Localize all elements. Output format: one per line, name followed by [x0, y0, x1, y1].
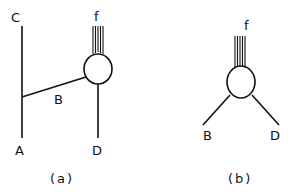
label-b: B: [54, 92, 63, 107]
label-d-b: D: [270, 128, 280, 143]
fiber-bundle-f: [93, 26, 103, 54]
fiber-bundle-f-b: [235, 36, 245, 68]
label-c: C: [11, 10, 20, 25]
label-b-b: B: [203, 128, 212, 143]
diagram-canvas: C A B f D (a) f B D (b): [0, 0, 296, 195]
label-f-b: f: [244, 18, 249, 33]
branch-d-line-b: [252, 95, 279, 125]
panel-a: C A B f D (a): [11, 9, 112, 186]
label-f: f: [94, 9, 99, 24]
panel-b: f B D (b): [203, 18, 280, 186]
label-d: D: [92, 143, 102, 158]
branch-b-line-b: [203, 95, 230, 125]
label-a: A: [15, 143, 24, 158]
cell-body-circle: [84, 54, 112, 84]
cell-body-circle-b: [227, 66, 255, 98]
caption-a: (a): [50, 171, 74, 186]
caption-b: (b): [228, 171, 252, 186]
